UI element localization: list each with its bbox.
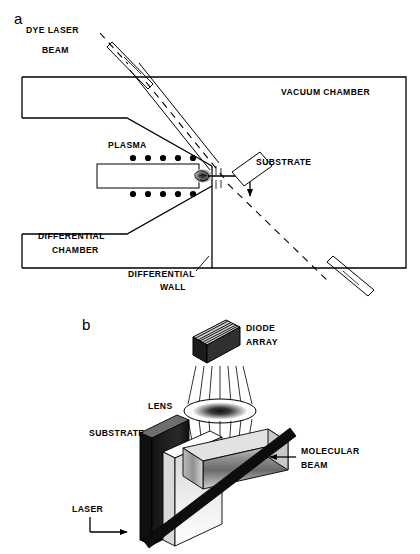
plasma-coil-dots-bottom xyxy=(130,191,196,197)
label-differential-wall-line2: WALL xyxy=(160,282,186,292)
label-molecular-beam-line2: BEAM xyxy=(301,460,328,470)
lens-element xyxy=(184,399,256,423)
rays-array-to-lens xyxy=(188,366,252,404)
label-substrate-b: SUBSTRATE xyxy=(89,428,144,438)
label-substrate-a: SUBSTRATE xyxy=(256,157,311,167)
panel-b-letter: b xyxy=(82,316,90,333)
aperture-flow-marks xyxy=(216,166,221,189)
label-dye-laser-line2: BEAM xyxy=(42,45,69,55)
label-lens: LENS xyxy=(148,401,173,411)
dye-laser-beam-tube-exit xyxy=(327,256,374,296)
panel-b: b xyxy=(72,316,360,548)
differential-wall-leader xyxy=(196,256,209,271)
label-molecular-beam-line1: MOLECULAR xyxy=(301,446,360,456)
panel-a-letter: a xyxy=(14,10,23,27)
diode-array-box xyxy=(193,320,240,363)
plasma-coil-dots-top xyxy=(130,155,196,161)
label-differential-chamber-line1: DIFFERENTIAL xyxy=(38,231,105,241)
label-differential-chamber-line2: CHAMBER xyxy=(52,245,99,255)
panel-a: a xyxy=(14,10,406,296)
label-laser: LASER xyxy=(72,504,104,514)
laser-leader-arrow xyxy=(90,517,127,532)
label-vacuum-chamber: VACUUM CHAMBER xyxy=(281,87,370,97)
label-diode-array-line2: ARRAY xyxy=(246,337,278,347)
plasma-tube xyxy=(97,164,199,188)
label-diode-array-line1: DIODE xyxy=(246,323,275,333)
label-plasma: PLASMA xyxy=(108,140,147,150)
label-differential-wall-line1: DIFFERENTIAL xyxy=(128,269,195,279)
figure-canvas: a xyxy=(0,0,420,554)
label-dye-laser-line1: DYE LASER xyxy=(26,25,79,35)
figure-root: a xyxy=(0,0,420,554)
